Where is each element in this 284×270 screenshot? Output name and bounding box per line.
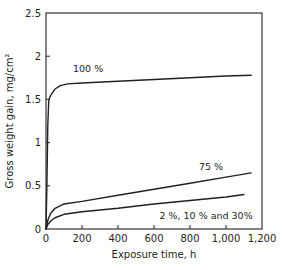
x-tick-label: 1,000 [212,233,241,244]
series-lines [46,75,251,229]
x-tick-label: 800 [180,233,199,244]
y-tick-label: 1.5 [25,94,41,105]
x-tick-label: 0 [43,233,49,244]
weight-gain-chart: 00.511.522.5 02004006008001,0001,200 100… [0,0,284,270]
series-line [46,75,251,229]
y-tick-label: 1 [35,137,41,148]
x-tick-label: 400 [108,233,127,244]
x-axis-label: Exposure time, h [112,249,197,260]
x-axis-ticks: 02004006008001,0001,200 [43,225,277,244]
series-label: 2 %, 10 % and 30% [159,210,252,221]
x-tick-label: 600 [144,233,163,244]
x-tick-label: 1,200 [248,233,277,244]
y-tick-label: 2.5 [25,8,41,19]
y-tick-label: 0 [35,224,41,235]
x-tick-label: 200 [72,233,91,244]
y-axis-label: Gross weight gain, mg/cm² [4,54,15,189]
series-label: 100 % [73,63,103,74]
series-label: 75 % [199,161,223,172]
y-tick-label: 2 [35,51,41,62]
y-tick-label: 0.5 [25,180,41,191]
